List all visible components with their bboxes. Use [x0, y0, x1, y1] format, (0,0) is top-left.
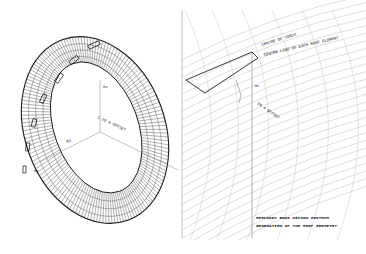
label-r1-left: R1 [103, 85, 108, 89]
torus-wireframe [0, 16, 194, 244]
label-r3-left: R3 [34, 169, 38, 173]
title-line-project: MERCEDES BENZ DESIGN ZENTRUM [256, 214, 366, 222]
label-offset-right: 20 m OFFSET [256, 102, 280, 121]
title-block: MERCEDES BENZ DESIGN ZENTRUM GENERATION … [256, 214, 366, 230]
roof-element-outline [186, 52, 258, 93]
title-line-subject: GENERATION OF THE ROOF GEOMETRY [256, 222, 366, 230]
label-r1-right: R1 [255, 84, 259, 88]
